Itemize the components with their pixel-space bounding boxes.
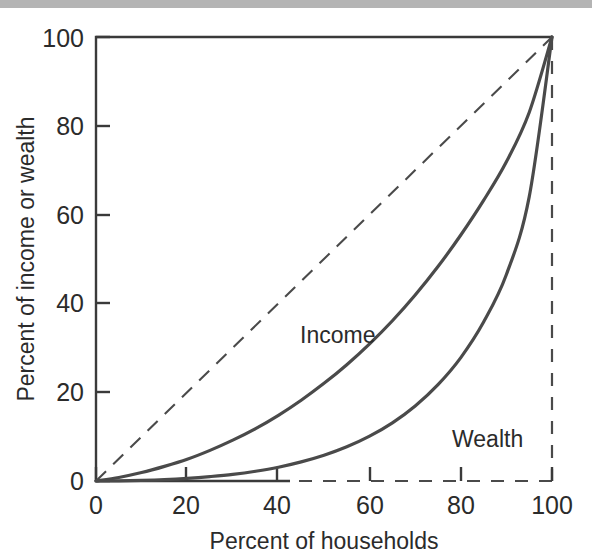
- y-axis-tick-labels: 0 20 40 60 80 100: [42, 24, 84, 495]
- lorenz-curve-chart: 0 20 40 60 80 100 0 20 40 60 80 100 Perc…: [0, 0, 592, 560]
- x-axis-tick-labels: 0 20 40 60 80 100: [89, 491, 573, 519]
- x-tick-label-60: 60: [356, 491, 384, 519]
- wealth-series-label: Wealth: [452, 426, 523, 452]
- x-tick-label-100: 100: [531, 491, 573, 519]
- y-tick-label-40: 40: [56, 289, 84, 317]
- y-tick-label-60: 60: [56, 201, 84, 229]
- y-axis-title: Percent of income or wealth: [13, 116, 39, 401]
- y-axis-ticks: [96, 37, 110, 481]
- x-tick-label-20: 20: [172, 491, 200, 519]
- x-tick-label-80: 80: [447, 491, 475, 519]
- lorenz-curve-figure: 0 20 40 60 80 100 0 20 40 60 80 100 Perc…: [0, 0, 592, 560]
- y-tick-label-0: 0: [70, 467, 84, 495]
- x-tick-label-0: 0: [89, 491, 103, 519]
- income-series-label: Income: [300, 322, 375, 348]
- x-axis-title: Percent of households: [210, 528, 439, 554]
- y-tick-label-80: 80: [56, 112, 84, 140]
- series-line-of-equality: [96, 37, 552, 481]
- x-tick-label-40: 40: [263, 491, 291, 519]
- y-tick-label-20: 20: [56, 378, 84, 406]
- y-tick-label-100: 100: [42, 24, 84, 52]
